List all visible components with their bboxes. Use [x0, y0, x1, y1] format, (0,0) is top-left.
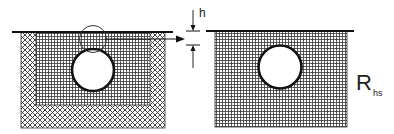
dimension-h-label: h [199, 6, 206, 20]
left-figure [12, 26, 185, 129]
resistance-label: Rhs [356, 70, 382, 98]
arrow-up-icon [191, 45, 196, 51]
diagram-canvas [0, 0, 394, 134]
arrow-down-icon [191, 25, 196, 31]
dimension-h [186, 10, 200, 68]
pipe-left [72, 49, 114, 91]
right-figure [206, 31, 354, 127]
resistance-label-main: R [356, 70, 372, 95]
resistance-label-sub: hs [373, 88, 383, 98]
flow-arrow-head [176, 36, 185, 43]
pipe-right [259, 46, 302, 89]
